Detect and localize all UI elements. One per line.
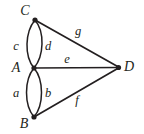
vertex-label-b: B [20, 117, 29, 131]
vertex-label-d: D [124, 60, 134, 74]
edge-label-c: c [13, 40, 19, 53]
edge-label-e: e [64, 53, 70, 66]
vertex-dot-c [32, 17, 37, 22]
edge-b-curve [34, 68, 42, 117]
graph-figure: C A B D c d a b e g f [0, 0, 144, 134]
edge-label-f: f [75, 94, 78, 107]
vertex-dot-b [31, 114, 36, 119]
edge-d-curve [34, 20, 42, 68]
graph-canvas [0, 0, 144, 134]
vertex-label-a: A [12, 61, 21, 75]
vertex-dot-d [116, 65, 121, 70]
vertex-dot-a [31, 65, 36, 70]
vertex-label-c: C [20, 4, 29, 18]
edge-a-curve [27, 68, 35, 117]
edge-e-line [34, 68, 119, 69]
edge-label-a: a [13, 87, 19, 100]
edge-label-d: d [45, 40, 51, 53]
edge-label-b: b [45, 87, 51, 100]
edge-label-g: g [75, 25, 81, 38]
edge-c-curve [27, 20, 35, 68]
